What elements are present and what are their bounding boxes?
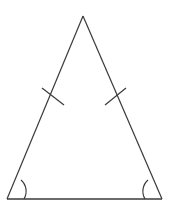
figure-background — [0, 0, 173, 210]
isosceles-triangle-figure — [0, 0, 173, 210]
